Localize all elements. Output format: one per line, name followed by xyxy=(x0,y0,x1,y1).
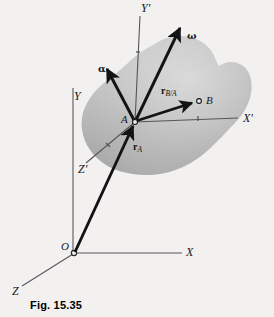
y-prime-axis-label: Y′ xyxy=(141,2,150,14)
x-prime-axis-label: X′ xyxy=(243,112,253,124)
point-a-label: A xyxy=(121,114,128,125)
omega-vector-label: ω xyxy=(187,31,197,41)
point-b-marker xyxy=(197,99,202,104)
figure-caption: Fig. 15.35 xyxy=(30,299,82,311)
point-b-label: B xyxy=(206,95,213,106)
point-o-label: O xyxy=(61,241,69,252)
x-axis-label: X xyxy=(186,246,193,258)
figure-container: X Y Z X′ Y′ Z′ O A B ω α rB/A rA Fig. 15… xyxy=(0,0,274,317)
y-prime-mark: ′ xyxy=(148,1,151,15)
y-prime-axis-letter: Y xyxy=(141,1,148,15)
z-axis-line xyxy=(22,254,73,286)
x-prime-mark: ′ xyxy=(250,111,253,125)
point-a-marker xyxy=(133,120,138,125)
z-prime-axis-label: Z′ xyxy=(78,163,87,175)
z-prime-mark: ′ xyxy=(85,162,88,176)
r-b-over-a-vector-label: rB/A xyxy=(161,86,177,96)
z-axis-label: Z xyxy=(12,285,19,297)
y-axis-label: Y xyxy=(74,90,81,102)
figure-diagram xyxy=(0,0,274,317)
r-a-vector-label: rA xyxy=(133,142,142,152)
r-a-subscript: A xyxy=(137,145,142,154)
r-b-over-a-subscript: B/A xyxy=(165,89,176,98)
z-prime-axis-letter: Z xyxy=(78,162,85,176)
alpha-vector-label: α xyxy=(98,64,106,74)
